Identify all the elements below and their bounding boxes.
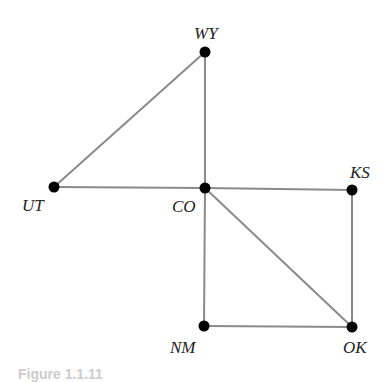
node-ok — [347, 322, 358, 333]
edge-co-nm — [204, 188, 205, 326]
node-ks — [347, 185, 358, 196]
label-ks: KS — [350, 164, 370, 181]
figure-caption: Figure 1.1.11 — [18, 366, 103, 382]
edge-nm-ok — [204, 326, 352, 327]
label-ok: OK — [343, 339, 367, 356]
edge-ut-co — [54, 187, 205, 188]
node-ut — [49, 182, 60, 193]
node-wy — [200, 47, 211, 58]
edge-co-ks — [205, 188, 352, 190]
label-nm: NM — [170, 339, 196, 356]
node-nm — [199, 321, 210, 332]
edge-co-ok — [205, 188, 352, 327]
label-ut: UT — [22, 197, 44, 214]
edge-wy-ut — [54, 52, 205, 187]
label-wy: WY — [194, 25, 218, 42]
label-co: CO — [172, 198, 196, 215]
node-co — [200, 183, 211, 194]
